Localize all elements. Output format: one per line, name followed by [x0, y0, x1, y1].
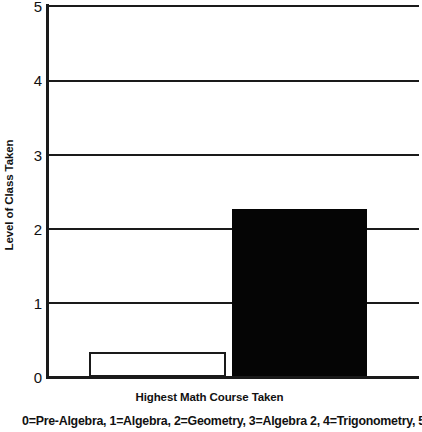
y-tick-label-0: 0 [24, 370, 42, 385]
x-axis-title: Highest Math Course Taken [0, 391, 419, 403]
bar-1 [89, 352, 226, 377]
y-axis-title-text: Level of Class Taken [3, 140, 15, 251]
bar-2 [232, 209, 367, 377]
gridline-5 [46, 5, 419, 7]
y-tick-label-1: 1 [24, 296, 42, 311]
y-tick-label-3: 3 [24, 148, 42, 163]
y-tick-label-2: 2 [24, 222, 42, 237]
y-tick-label-4: 4 [24, 73, 42, 88]
plot-area [46, 0, 419, 381]
gridline-4 [46, 80, 419, 82]
gridline-3 [46, 154, 419, 156]
x-axis-baseline [46, 376, 419, 379]
y-axis-tick-labels: 5 4 3 2 1 0 [22, 0, 42, 390]
chart-caption: 0=Pre-Algebra, 1=Algebra, 2=Geometry, 3=… [22, 414, 422, 428]
y-axis-line [46, 4, 49, 379]
y-axis-title: Level of Class Taken [0, 120, 18, 270]
y-tick-label-5: 5 [24, 0, 42, 14]
